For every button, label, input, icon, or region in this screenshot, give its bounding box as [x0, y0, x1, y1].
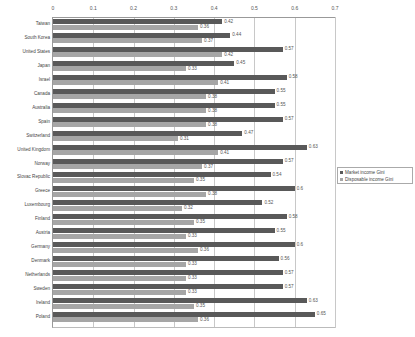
- category-label: Slovac Republic: [0, 174, 50, 179]
- bar-market-income: [53, 284, 283, 289]
- x-tick-label: 0.1: [90, 5, 97, 11]
- value-label: 0.57: [285, 158, 294, 163]
- value-label: 0.57: [285, 116, 294, 121]
- bar-market-income: [53, 89, 275, 94]
- bar-disposable-income: [53, 94, 206, 99]
- bar-disposable-income: [53, 206, 182, 211]
- bar-disposable-income: [53, 80, 218, 85]
- legend-item-market: Market income Gini: [340, 169, 410, 176]
- value-label: 0.33: [188, 66, 197, 71]
- bar-disposable-income: [53, 276, 186, 281]
- gini-bar-chart: 00.10.20.30.40.50.60.7 Taiwan0.420.36Sou…: [0, 0, 415, 337]
- legend-item-disposable: Disposable income Gini: [340, 176, 410, 183]
- legend-swatch-disposable: [340, 178, 343, 181]
- value-label: 0.54: [273, 172, 282, 177]
- bar-disposable-income: [53, 234, 186, 239]
- value-label: 0.41: [220, 80, 229, 85]
- x-tick-label: 0: [52, 5, 55, 11]
- bar-market-income: [53, 242, 295, 247]
- value-label: 0.36: [200, 317, 209, 322]
- value-label: 0.32: [184, 205, 193, 210]
- category-label: Israel: [0, 77, 50, 82]
- category-label: Austria: [0, 230, 50, 235]
- bar-disposable-income: [53, 52, 222, 57]
- x-tick-label: 0.2: [130, 5, 137, 11]
- category-label: United States: [0, 49, 50, 54]
- category-label: Finland: [0, 216, 50, 221]
- bar-disposable-income: [53, 220, 194, 225]
- category-label: Australia: [0, 105, 50, 110]
- category-label: Netherlands: [0, 272, 50, 277]
- category-label: Greece: [0, 188, 50, 193]
- value-label: 0.57: [285, 46, 294, 51]
- category-label: Germany: [0, 244, 50, 249]
- x-tick-label: 0.5: [251, 5, 258, 11]
- value-label: 0.36: [200, 24, 209, 29]
- category-label: Canada: [0, 91, 50, 96]
- value-label: 0.31: [180, 136, 189, 141]
- value-label: 0.35: [196, 303, 205, 308]
- bar-disposable-income: [53, 178, 194, 183]
- value-label: 0.65: [317, 311, 326, 316]
- category-label: Poland: [0, 314, 50, 319]
- legend: Market income Gini Disposable income Gin…: [337, 167, 413, 184]
- category-label: Taiwan: [0, 21, 50, 26]
- category-label: Sweden: [0, 286, 50, 291]
- bar-disposable-income: [53, 108, 206, 113]
- value-label: 0.33: [188, 275, 197, 280]
- bar-market-income: [53, 103, 275, 108]
- bar-disposable-income: [53, 248, 198, 253]
- value-label: 0.52: [264, 200, 273, 205]
- bar-disposable-income: [53, 122, 206, 127]
- value-label: 0.38: [208, 191, 217, 196]
- x-tick-label: 0.3: [170, 5, 177, 11]
- bar-market-income: [53, 200, 262, 205]
- bar-market-income: [53, 298, 307, 303]
- legend-label-market: Market income Gini: [345, 170, 385, 175]
- legend-label-disposable: Disposable income Gini: [345, 177, 393, 182]
- bar-market-income: [53, 47, 283, 52]
- value-label: 0.33: [188, 233, 197, 238]
- bar-market-income: [53, 61, 234, 66]
- value-label: 0.47: [244, 130, 253, 135]
- value-label: 0.58: [289, 214, 298, 219]
- value-label: 0.38: [208, 94, 217, 99]
- bar-disposable-income: [53, 317, 198, 322]
- category-label: Norway: [0, 161, 50, 166]
- bar-market-income: [53, 131, 242, 136]
- value-label: 0.37: [204, 38, 213, 43]
- value-label: 0.55: [277, 228, 286, 233]
- bar-disposable-income: [53, 25, 198, 30]
- bar-market-income: [53, 75, 287, 80]
- bar-market-income: [53, 186, 295, 191]
- value-label: 0.56: [281, 256, 290, 261]
- bar-disposable-income: [53, 164, 202, 169]
- bar-market-income: [53, 117, 283, 122]
- value-label: 0.55: [277, 88, 286, 93]
- value-label: 0.33: [188, 261, 197, 266]
- value-label: 0.55: [277, 102, 286, 107]
- bar-disposable-income: [53, 150, 218, 155]
- value-label: 0.35: [196, 219, 205, 224]
- value-label: 0.45: [236, 60, 245, 65]
- bar-market-income: [53, 19, 222, 24]
- value-label: 0.42: [224, 19, 233, 24]
- value-label: 0.33: [188, 289, 197, 294]
- value-label: 0.6: [297, 186, 303, 191]
- bar-disposable-income: [53, 192, 206, 197]
- value-label: 0.57: [285, 284, 294, 289]
- bar-disposable-income: [53, 262, 186, 267]
- category-label: Luxembourg: [0, 202, 50, 207]
- bar-disposable-income: [53, 38, 202, 43]
- legend-swatch-market: [340, 171, 343, 174]
- category-label: Denmark: [0, 258, 50, 263]
- value-label: 0.6: [297, 242, 303, 247]
- value-label: 0.38: [208, 108, 217, 113]
- value-label: 0.58: [289, 74, 298, 79]
- value-label: 0.63: [309, 144, 318, 149]
- category-label: Switzerland: [0, 133, 50, 138]
- bar-market-income: [53, 145, 307, 150]
- bar-market-income: [53, 228, 275, 233]
- bar-disposable-income: [53, 290, 186, 295]
- value-label: 0.37: [204, 164, 213, 169]
